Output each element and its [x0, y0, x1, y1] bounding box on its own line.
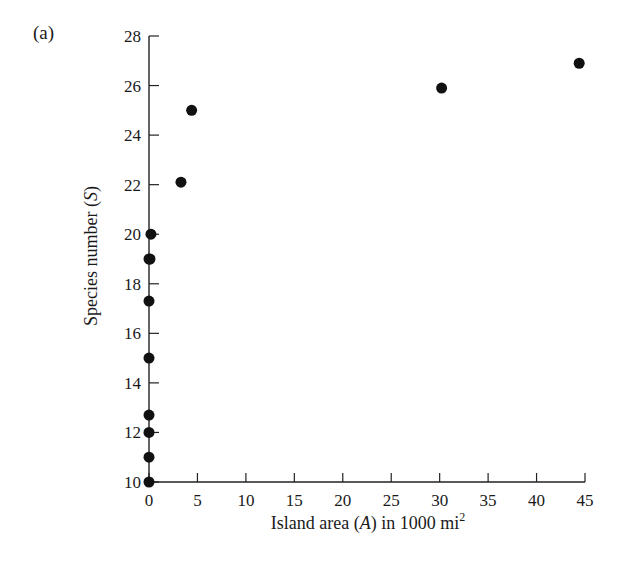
- x-tick-label: 35: [480, 491, 497, 510]
- x-axis-ticks: 051015202530354045: [145, 473, 594, 510]
- x-axis-title: Island area (A) in 1000 mi2: [271, 510, 465, 534]
- x-tick-label: 20: [334, 491, 351, 510]
- data-point: [436, 83, 447, 94]
- x-tick-label: 5: [193, 491, 202, 510]
- data-point: [574, 58, 585, 69]
- y-tick-label: 12: [124, 423, 141, 442]
- axes: [149, 36, 585, 482]
- data-points: [144, 58, 585, 488]
- x-tick-label: 30: [431, 491, 448, 510]
- y-tick-label: 16: [124, 324, 141, 343]
- data-point: [144, 353, 155, 364]
- data-point: [145, 229, 156, 240]
- y-tick-label: 18: [124, 275, 141, 294]
- data-point: [186, 105, 197, 116]
- y-axis-title: Species number (S): [81, 186, 102, 326]
- data-point: [144, 410, 155, 421]
- y-tick-label: 28: [124, 27, 141, 46]
- x-tick-label: 10: [237, 491, 254, 510]
- x-tick-label: 45: [577, 491, 594, 510]
- data-point: [144, 477, 155, 488]
- data-point: [175, 177, 186, 188]
- y-tick-label: 10: [124, 473, 141, 492]
- data-point: [144, 427, 155, 438]
- y-tick-label: 20: [124, 225, 141, 244]
- scatter-chart: 051015202530354045 10121416182022242628 …: [0, 0, 639, 565]
- y-tick-label: 22: [124, 176, 141, 195]
- data-point: [144, 452, 155, 463]
- y-tick-label: 14: [124, 374, 142, 393]
- x-tick-label: 25: [383, 491, 400, 510]
- data-point: [144, 296, 155, 307]
- y-tick-label: 24: [124, 126, 142, 145]
- data-point: [144, 254, 155, 265]
- x-tick-label: 0: [145, 491, 154, 510]
- y-tick-label: 26: [124, 77, 141, 96]
- x-tick-label: 15: [286, 491, 303, 510]
- x-tick-label: 40: [528, 491, 545, 510]
